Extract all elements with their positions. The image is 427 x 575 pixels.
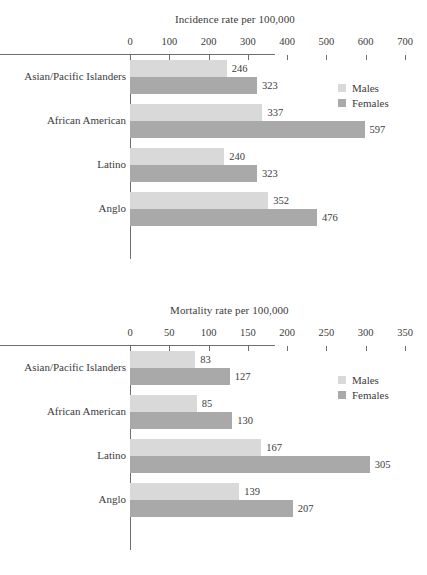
legend-swatch-males-icon	[338, 84, 346, 92]
bar-females[interactable]	[130, 165, 257, 182]
category-label: Asian/Pacific Islanders	[2, 70, 126, 82]
legend-item-females[interactable]: Females	[338, 387, 389, 402]
x-axis-tick-label: 100	[161, 36, 177, 47]
bar-females[interactable]	[130, 500, 293, 517]
legend-item-males[interactable]: Males	[338, 80, 389, 95]
bar-value-label: 337	[267, 104, 283, 121]
bar-males[interactable]	[130, 439, 261, 456]
bar-males[interactable]	[130, 483, 239, 500]
category-label: Asian/Pacific Islanders	[2, 361, 126, 373]
legend-swatch-females-icon	[338, 391, 346, 399]
bar-value-label: 83	[200, 351, 211, 368]
bar-value-label: 246	[232, 60, 248, 77]
chart-page: { "legend": { "males_label": "Males", "f…	[0, 0, 427, 575]
x-axis-tick-label: 600	[358, 36, 374, 47]
bar-value-label: 476	[322, 209, 338, 226]
x-axis-tick-label: 250	[319, 327, 335, 338]
bar-females[interactable]	[130, 77, 257, 94]
bar-value-label: 167	[266, 439, 282, 456]
x-axis-tick-label: 350	[397, 327, 413, 338]
bar-males[interactable]	[130, 351, 195, 368]
category-label: Latino	[2, 158, 126, 170]
bar-value-label: 305	[375, 456, 391, 473]
category-label: Anglo	[2, 493, 126, 505]
x-axis-tick-label: 50	[164, 327, 175, 338]
x-axis-tick-label: 500	[319, 36, 335, 47]
bar-value-label: 85	[202, 395, 213, 412]
bar-females[interactable]	[130, 368, 230, 385]
category-label: African American	[2, 405, 126, 417]
x-axis-tick-label: 100	[201, 327, 217, 338]
x-axis-tick-label: 0	[127, 36, 132, 47]
legend-item-females[interactable]: Females	[338, 95, 389, 110]
bar-value-label: 597	[370, 121, 386, 138]
bar-males[interactable]	[130, 148, 224, 165]
bar-males[interactable]	[130, 192, 268, 209]
mortality-chart: Mortality rate per 100,000 0501001502002…	[0, 290, 427, 575]
bar-value-label: 207	[298, 500, 314, 517]
x-axis-tick-label: 700	[397, 36, 413, 47]
bar-value-label: 323	[262, 165, 278, 182]
bar-value-label: 323	[262, 77, 278, 94]
bar-value-label: 352	[273, 192, 289, 209]
bar-males[interactable]	[130, 60, 227, 77]
legend-swatch-females-icon	[338, 99, 346, 107]
category-label: Anglo	[2, 202, 126, 214]
legend-swatch-males-icon	[338, 376, 346, 384]
legend-label-females: Females	[352, 97, 389, 109]
chart-title-incidence: Incidence rate per 100,000	[175, 13, 295, 25]
x-axis-tick-label: 200	[279, 327, 295, 338]
x-axis-tick-label: 300	[240, 36, 256, 47]
x-axis-tick-labels-incidence: 0100200300400500600700	[130, 36, 405, 50]
x-axis-tick-label: 150	[240, 327, 256, 338]
bar-value-label: 127	[235, 368, 251, 385]
bar-value-label: 139	[244, 483, 260, 500]
x-axis-tick-label: 400	[279, 36, 295, 47]
x-axis-tick-label: 200	[201, 36, 217, 47]
category-label: Latino	[2, 449, 126, 461]
bar-females[interactable]	[130, 412, 232, 429]
incidence-chart: Incidence rate per 100,000 0100200300400…	[0, 0, 427, 290]
legend-item-males[interactable]: Males	[338, 372, 389, 387]
legend-label-males: Males	[352, 374, 379, 386]
bar-males[interactable]	[130, 395, 197, 412]
category-label: African American	[2, 114, 126, 126]
legend-mortality: Males Females	[338, 372, 389, 402]
chart-title-mortality: Mortality rate per 100,000	[170, 304, 289, 316]
legend-label-females: Females	[352, 389, 389, 401]
bar-females[interactable]	[130, 121, 365, 138]
legend-label-males: Males	[352, 82, 379, 94]
bar-value-label: 240	[229, 148, 245, 165]
legend-incidence: Males Females	[338, 80, 389, 110]
bar-females[interactable]	[130, 456, 370, 473]
x-axis-tick-label: 300	[358, 327, 374, 338]
bar-males[interactable]	[130, 104, 262, 121]
bar-females[interactable]	[130, 209, 317, 226]
x-axis-tick-label: 0	[127, 327, 132, 338]
bar-value-label: 130	[237, 412, 253, 429]
x-axis-tick-labels-mortality: 050100150200250300350	[130, 327, 405, 341]
